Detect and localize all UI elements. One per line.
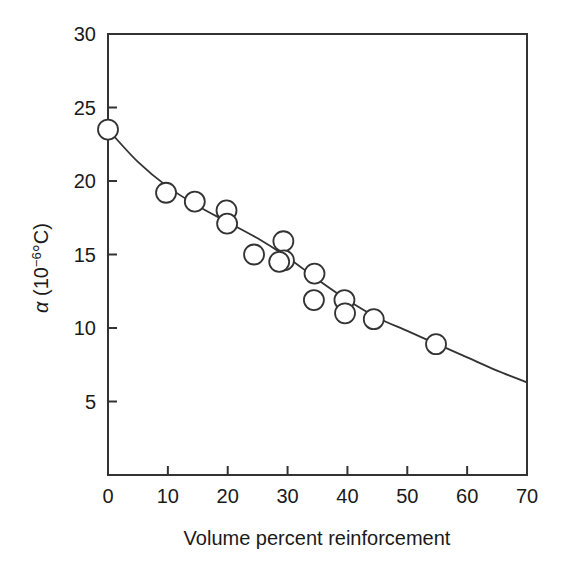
y-axis-label-open: (10 [30, 267, 52, 301]
y-tick-label: 10 [74, 317, 96, 339]
data-point [269, 252, 289, 272]
y-tick-label: 5 [85, 391, 96, 413]
y-axis-label-unit: °C) [30, 223, 52, 252]
data-point [185, 192, 205, 212]
x-tick-label: 40 [336, 485, 358, 507]
svg-text:α (10−6°C): α (10−6°C) [29, 223, 52, 313]
x-tick-label: 30 [276, 485, 298, 507]
y-tick-label: 30 [74, 23, 96, 45]
y-tick-label: 20 [74, 170, 96, 192]
x-tick-label: 50 [396, 485, 418, 507]
data-point [217, 214, 237, 234]
y-axis-title: α (10−6°C) [29, 223, 52, 313]
data-point [98, 120, 118, 140]
data-point [156, 183, 176, 203]
chart-plot-area: 010203040506070 51015202530 Volume perce… [0, 0, 584, 573]
y-tick-label: 15 [74, 244, 96, 266]
x-tick-label: 20 [217, 485, 239, 507]
data-point [426, 334, 446, 354]
data-point [305, 264, 325, 284]
y-axis-label-exponent: −6 [29, 252, 44, 267]
data-point [244, 245, 264, 265]
y-axis-tick-labels: 51015202530 [74, 23, 96, 413]
data-point [335, 303, 355, 323]
y-tick-label: 25 [74, 97, 96, 119]
data-point [304, 290, 324, 310]
x-axis-title: Volume percent reinforcement [184, 527, 451, 549]
data-point [273, 231, 293, 251]
data-point [364, 309, 384, 329]
x-tick-label: 0 [102, 485, 113, 507]
chart-figure: 010203040506070 51015202530 Volume perce… [0, 0, 584, 573]
x-tick-label: 60 [456, 485, 478, 507]
x-axis-tick-labels: 010203040506070 [102, 485, 538, 507]
x-tick-label: 10 [157, 485, 179, 507]
plot-frame [108, 34, 527, 475]
x-tick-label: 70 [516, 485, 538, 507]
y-axis-alpha-symbol: α [30, 301, 52, 313]
